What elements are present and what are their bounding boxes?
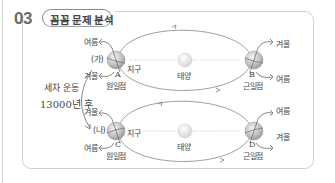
- point-d-letter: D: [249, 140, 255, 149]
- earth-label-bottom: 지구: [127, 127, 140, 138]
- season-label-c-down: 여름: [84, 142, 97, 153]
- season-label-a-up: 여름: [84, 36, 97, 47]
- point-b-letter: B: [249, 70, 255, 79]
- season-label-b-down: 여름: [276, 73, 289, 84]
- perihelion-label-b: 근일점: [243, 80, 263, 91]
- earth-icon-a: [107, 48, 125, 72]
- aphelion-label-a: 원일점: [106, 80, 126, 91]
- aphelion-label-c: 원일점: [106, 150, 126, 161]
- sun-label-top: 태양: [177, 70, 190, 81]
- point-c-letter: C: [115, 140, 121, 149]
- perihelion-label-d: 근일점: [243, 150, 263, 161]
- earth-label-top: 지구: [127, 63, 140, 74]
- sun-icon-bottom: [178, 124, 192, 138]
- earth-icon-b: [245, 48, 263, 72]
- season-label-d-down: 겨울: [276, 131, 289, 142]
- season-label-c-up: 겨울: [84, 106, 97, 117]
- point-a-letter: A: [115, 70, 120, 79]
- diagram-label-ga: (가): [91, 53, 103, 64]
- season-label-b-up: 겨울: [276, 38, 289, 49]
- sun-label-bottom: 태양: [177, 141, 190, 152]
- precession-label: 세차 운동: [44, 81, 79, 94]
- season-label-a-down: 겨울: [84, 70, 97, 81]
- season-label-d-up: 여름: [276, 105, 289, 116]
- diagram-label-na: (나): [93, 124, 105, 135]
- sun-icon-top: [178, 53, 192, 67]
